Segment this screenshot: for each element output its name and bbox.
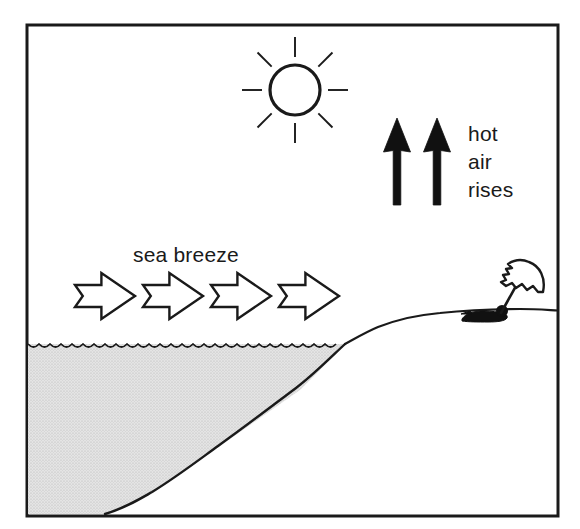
hot-air-label-line-2: air — [468, 150, 492, 173]
sun-disc — [270, 65, 320, 115]
sea-breeze-diagram: hot air rises sea breeze — [0, 0, 580, 529]
sun-icon — [242, 37, 348, 143]
hot-air-label-line-3: rises — [468, 178, 513, 201]
sea-breeze-label: sea breeze — [133, 243, 239, 266]
diagram-canvas: hot air rises sea breeze — [0, 0, 580, 529]
hot-air-label-line-1: hot — [468, 122, 498, 145]
